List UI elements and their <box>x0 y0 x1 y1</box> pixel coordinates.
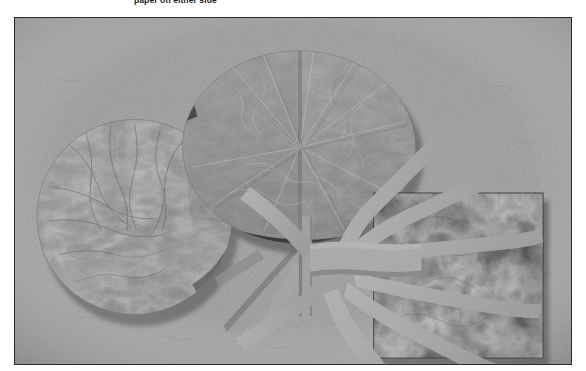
photograph-artwork <box>15 18 571 364</box>
photograph-canvas <box>15 18 571 364</box>
photograph-frame <box>14 17 572 365</box>
figure-caption-text: paper on either side <box>134 0 217 6</box>
photo-grain-overlay <box>15 18 571 364</box>
figure-caption: paper on either side <box>0 0 586 14</box>
